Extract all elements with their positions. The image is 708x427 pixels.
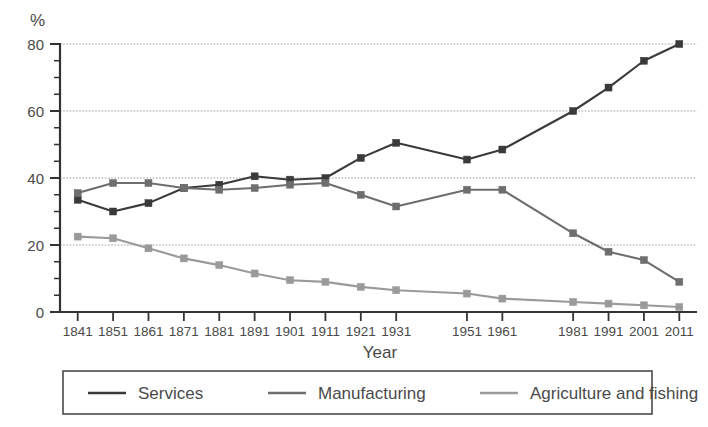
data-point-marker xyxy=(463,290,470,297)
data-point-marker xyxy=(393,203,400,210)
data-point-marker xyxy=(110,180,117,187)
y-axis-tick-label: 80 xyxy=(27,36,44,53)
data-point-marker xyxy=(74,190,81,197)
x-axis-tick-label: 1931 xyxy=(381,324,411,339)
data-point-marker xyxy=(74,196,81,203)
x-axis-tick-label: 1871 xyxy=(169,324,199,339)
y-axis-tick-label: 20 xyxy=(27,237,44,254)
x-axis-tick-label: 1951 xyxy=(452,324,482,339)
data-point-marker xyxy=(357,154,364,161)
data-point-marker xyxy=(570,108,577,115)
legend-label: Services xyxy=(138,384,203,403)
y-axis-tick-label: 40 xyxy=(27,170,44,187)
data-point-marker xyxy=(251,185,258,192)
x-axis-tick-label: 1901 xyxy=(275,324,305,339)
x-axis-tick-label: 1991 xyxy=(594,324,624,339)
y-axis-tick-label: 60 xyxy=(27,103,44,120)
data-point-marker xyxy=(499,186,506,193)
chart-container: 020406080 184118511861187118811891190119… xyxy=(0,0,708,427)
data-point-marker xyxy=(570,230,577,237)
x-axis-tick-label: 1921 xyxy=(346,324,376,339)
data-point-marker xyxy=(676,278,683,285)
data-point-marker xyxy=(287,181,294,188)
data-point-marker xyxy=(145,245,152,252)
x-axis-tick-label: 1851 xyxy=(98,324,128,339)
x-axis-title: Year xyxy=(363,343,398,362)
data-point-marker xyxy=(357,191,364,198)
data-point-marker xyxy=(357,283,364,290)
data-point-marker xyxy=(393,287,400,294)
x-axis-tick-label: 2001 xyxy=(629,324,659,339)
data-point-marker xyxy=(216,262,223,269)
data-point-marker xyxy=(393,139,400,146)
data-point-marker xyxy=(322,278,329,285)
chart-background xyxy=(0,0,708,427)
data-point-marker xyxy=(499,146,506,153)
data-point-marker xyxy=(570,298,577,305)
data-point-marker xyxy=(74,233,81,240)
x-axis-tick-label: 1961 xyxy=(487,324,517,339)
data-point-marker xyxy=(676,41,683,48)
data-point-marker xyxy=(251,173,258,180)
data-point-marker xyxy=(605,300,612,307)
x-axis-tick-label: 1891 xyxy=(240,324,270,339)
data-point-marker xyxy=(499,295,506,302)
x-axis-tick-label: 1911 xyxy=(311,324,340,339)
legend-items: ServicesManufacturingAgriculture and fis… xyxy=(88,384,698,403)
y-axis-tick-label: 0 xyxy=(36,304,44,321)
data-point-marker xyxy=(463,156,470,163)
x-axis-tick-label: 1981 xyxy=(558,324,588,339)
data-point-marker xyxy=(463,186,470,193)
data-point-marker xyxy=(676,303,683,310)
data-point-marker xyxy=(605,248,612,255)
data-point-marker xyxy=(145,200,152,207)
x-axis-tick-label: 1861 xyxy=(133,324,163,339)
data-point-marker xyxy=(605,84,612,91)
legend-label: Agriculture and fishing xyxy=(530,384,698,403)
data-point-marker xyxy=(640,57,647,64)
data-point-marker xyxy=(322,180,329,187)
data-point-marker xyxy=(216,186,223,193)
data-point-marker xyxy=(640,302,647,309)
line-chart: 020406080 184118511861187118811891190119… xyxy=(0,0,708,427)
x-axis-tick-label: 2011 xyxy=(665,324,694,339)
data-point-marker xyxy=(145,180,152,187)
x-axis-tick-label: 1841 xyxy=(63,324,93,339)
data-point-marker xyxy=(287,277,294,284)
y-axis-unit-label: % xyxy=(30,11,45,30)
data-point-marker xyxy=(110,235,117,242)
legend-label: Manufacturing xyxy=(318,384,426,403)
data-point-marker xyxy=(251,270,258,277)
data-point-marker xyxy=(110,208,117,215)
data-point-marker xyxy=(640,257,647,264)
data-point-marker xyxy=(180,255,187,262)
data-point-marker xyxy=(180,185,187,192)
x-axis-tick-label: 1881 xyxy=(204,324,234,339)
